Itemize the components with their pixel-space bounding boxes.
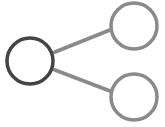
target-top-node-circle: [111, 3, 157, 49]
share-icon-graphic: [0, 0, 165, 127]
connector-line-top: [55, 30, 110, 52]
connector-line-bottom: [55, 70, 110, 91]
source-node-circle: [7, 38, 53, 84]
target-bottom-node-circle: [111, 74, 157, 120]
share-icon[interactable]: [0, 0, 165, 127]
